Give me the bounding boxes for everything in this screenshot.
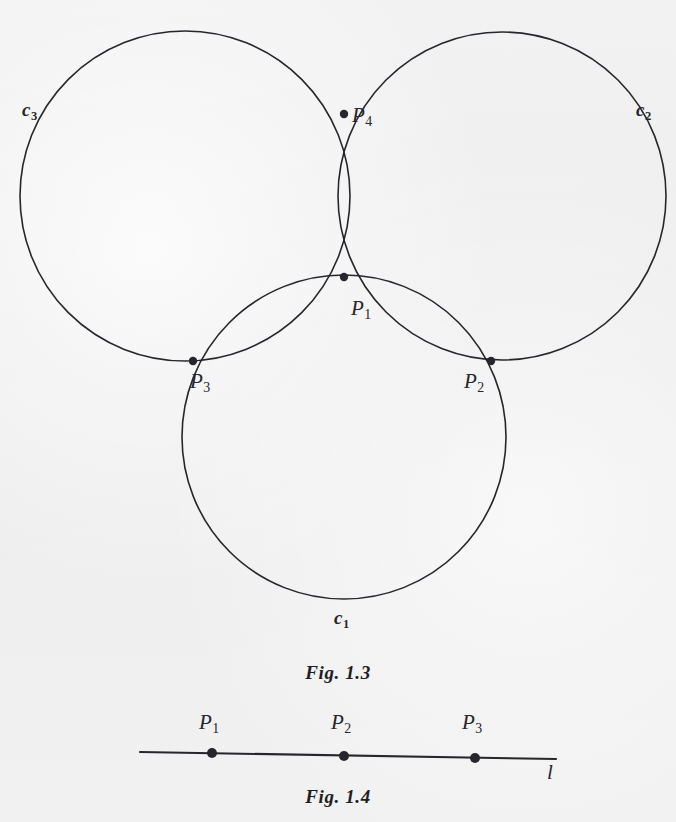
point-P4 — [340, 110, 348, 118]
circle-c3 — [20, 31, 350, 361]
point-P3 — [470, 753, 480, 763]
circle-label-c3: c3 — [22, 100, 37, 123]
line-point-label-P2: P2 — [331, 712, 351, 736]
line-label-l: l — [547, 762, 553, 783]
point-label-P3: P3 — [190, 371, 210, 395]
point-label-P1: P1 — [351, 298, 371, 322]
circle-label-c1: c1 — [334, 608, 349, 631]
fig-1-4-points — [207, 748, 480, 763]
circle-c2 — [338, 32, 666, 360]
point-P2 — [339, 751, 349, 761]
point-label-P2: P2 — [464, 371, 484, 395]
point-P1 — [340, 273, 348, 281]
circle-c1 — [182, 275, 506, 599]
line-point-label-P3: P3 — [462, 712, 482, 736]
point-P1 — [207, 748, 217, 758]
line-point-label-P1: P1 — [199, 712, 219, 736]
point-P3 — [189, 357, 197, 365]
figures-canvas — [0, 0, 676, 822]
figure-caption-1-3: Fig. 1.3 — [0, 662, 676, 684]
circle-label-c2: c2 — [636, 100, 651, 123]
fig-1-3-points — [189, 110, 495, 365]
point-label-P4: P4 — [352, 105, 372, 129]
point-P2 — [487, 357, 495, 365]
figure-caption-1-4: Fig. 1.4 — [0, 786, 676, 808]
